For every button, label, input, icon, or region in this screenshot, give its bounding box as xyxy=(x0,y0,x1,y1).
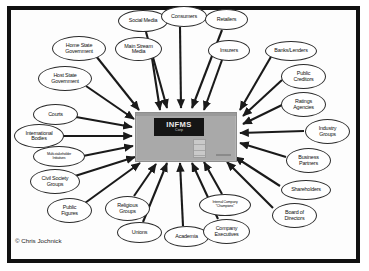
node-label: Multi-stakeholder Initiatives xyxy=(47,153,71,160)
node-label: Home State Government xyxy=(65,43,93,54)
node-public-figures[interactable]: Public Figures xyxy=(47,198,92,223)
node-label: Retailers xyxy=(217,17,236,23)
node-main-stream-media[interactable]: Main Stream Media xyxy=(115,37,162,61)
arrow-internal-champions-to-hub xyxy=(204,162,222,194)
diagram-stage: Social MediaConsumersRetailersMain Strea… xyxy=(0,0,369,271)
hub-roof xyxy=(136,113,236,116)
copyright-credit: © Chris Jochnick xyxy=(15,237,62,244)
arrow-shareholders-to-hub xyxy=(235,157,280,186)
node-host-state-government[interactable]: Host State Government xyxy=(38,66,92,91)
arrow-consumers-to-hub xyxy=(180,27,181,108)
node-industry-groups[interactable]: Industry Groups xyxy=(305,119,350,144)
node-retailers[interactable]: Retailers xyxy=(205,9,248,30)
node-internal-champions[interactable]: Internal Company “Champions” xyxy=(199,194,251,216)
node-religious-groups[interactable]: Religious Groups xyxy=(105,196,150,221)
node-unions[interactable]: Unions xyxy=(117,222,162,243)
node-ratings-agencies[interactable]: Ratings Agencies xyxy=(281,92,326,117)
node-label: Public Figures xyxy=(61,205,78,216)
node-label: Business Partners xyxy=(298,155,318,166)
node-label: Courts xyxy=(48,112,63,118)
node-label: Public Creditors xyxy=(293,71,313,82)
node-label: Company Executives xyxy=(214,226,238,237)
node-label: Unions xyxy=(132,230,148,236)
node-label: International Bodies xyxy=(25,131,52,142)
node-banks-lenders[interactable]: Banks/Lenders xyxy=(265,41,317,61)
node-label: Main Stream Media xyxy=(124,44,152,55)
node-multi-stakeholder[interactable]: Multi-stakeholder Initiatives xyxy=(33,146,85,167)
node-shareholders[interactable]: Shareholders xyxy=(281,180,331,200)
arrow-courts-to-hub xyxy=(76,117,132,127)
node-label: Social Media xyxy=(129,18,157,24)
arrow-public-creditors-to-hub xyxy=(243,80,282,116)
hub-subtitle: Corp xyxy=(175,129,183,133)
arrow-multi-stakeholder-to-hub xyxy=(83,146,133,156)
hub-building: INFMS Corp xyxy=(135,112,237,162)
node-public-creditors[interactable]: Public Creditors xyxy=(281,64,326,89)
node-label: Consumers xyxy=(171,14,197,20)
arrow-home-state-government-to-hub xyxy=(96,56,139,110)
node-home-state-government[interactable]: Home State Government xyxy=(52,36,106,61)
node-courts[interactable]: Courts xyxy=(33,104,78,125)
arrow-ratings-agencies-to-hub xyxy=(243,105,282,124)
hub-ledge xyxy=(216,154,231,156)
node-label: Internal Company “Champions” xyxy=(212,201,237,208)
node-civil-society-groups[interactable]: Civil Society Groups xyxy=(30,169,80,194)
hub-door xyxy=(193,139,206,158)
node-label: Industry Groups xyxy=(319,126,337,137)
node-label: Shareholders xyxy=(291,187,321,193)
node-label: Academia xyxy=(175,234,197,240)
arrow-academia-to-hub xyxy=(180,163,183,226)
arrow-business-partners-to-hub xyxy=(240,143,286,157)
node-label: Board of Directors xyxy=(285,210,305,221)
node-label: Insurers xyxy=(220,48,238,54)
node-international-bodies[interactable]: International Bodies xyxy=(14,124,64,148)
node-label: Host State Government xyxy=(51,73,79,84)
node-label: Ratings Agencies xyxy=(293,99,314,110)
arrow-religious-groups-to-hub xyxy=(134,164,156,196)
node-business-partners[interactable]: Business Partners xyxy=(286,148,331,173)
hub-sign: INFMS Corp xyxy=(154,118,204,136)
node-label: Religious Groups xyxy=(117,203,137,214)
node-label: Banks/Lenders xyxy=(274,48,307,54)
node-consumers[interactable]: Consumers xyxy=(161,6,207,27)
arrow-host-state-government-to-hub xyxy=(86,86,134,119)
arrow-industry-groups-to-hub xyxy=(240,131,304,133)
node-label: Civil Society Groups xyxy=(42,176,69,187)
node-insurers[interactable]: Insurers xyxy=(208,40,250,61)
node-board-of-directors[interactable]: Board of Directors xyxy=(272,203,317,228)
node-social-media[interactable]: Social Media xyxy=(118,10,168,32)
node-company-executives[interactable]: Company Executives xyxy=(203,219,250,244)
arrow-banks-lenders-to-hub xyxy=(240,55,272,110)
